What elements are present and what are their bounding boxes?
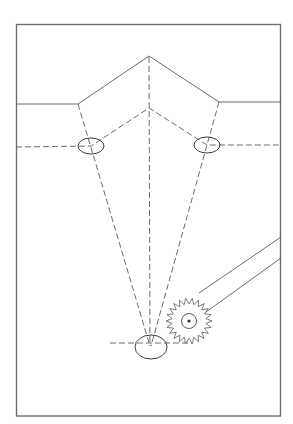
center-line — [149, 57, 150, 346]
page-frame — [17, 25, 281, 417]
handle-lower-edge — [206, 258, 281, 312]
handle-upper-edge — [199, 237, 281, 293]
pattern-diagram — [0, 0, 293, 424]
wheel-axle — [187, 319, 190, 322]
right-shoulder-ellipse — [194, 137, 220, 153]
inner-seam-outline — [16, 108, 281, 147]
tracing-wheel-icon — [166, 237, 281, 344]
left-guide-line — [78, 104, 150, 346]
diagram-canvas: Pattern drafting diagram: a pentagon-sha… — [0, 0, 293, 424]
bottom-point-ellipse — [135, 335, 167, 359]
outer-yoke-outline — [16, 56, 281, 104]
